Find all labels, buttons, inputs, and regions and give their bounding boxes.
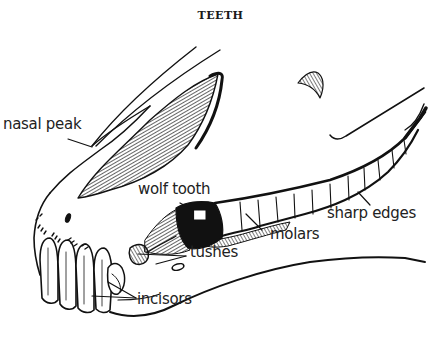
- upper-molar-row: [215, 112, 425, 203]
- incisor-teeth: [40, 238, 112, 313]
- label-wolf-tooth: wolf tooth: [138, 182, 210, 197]
- label-molars: molars: [270, 227, 319, 242]
- label-sharp-edges: sharp edges: [327, 206, 416, 221]
- label-tushes: tushes: [190, 245, 238, 260]
- horse-skull-illustration: [0, 0, 441, 340]
- label-nasal-peak: nasal peak: [3, 117, 81, 132]
- orbit-mark: [298, 72, 323, 98]
- label-incisors: incisors: [137, 292, 192, 307]
- foramen-mark: [64, 213, 71, 223]
